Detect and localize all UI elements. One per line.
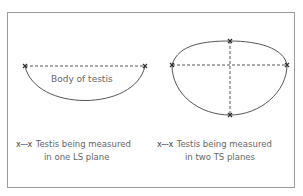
body-of-testis-label: Body of testis	[51, 74, 113, 85]
legend-text-line1: Testis being measured	[177, 139, 272, 149]
ts-plane-diagram	[170, 39, 289, 117]
ts-planes-legend: x---xTestis being measured in two TS pla…	[157, 138, 272, 163]
legend-text-line2: in one LS plane	[16, 151, 131, 163]
legend-text-line2: in two TS planes	[157, 151, 272, 163]
ls-plane-legend: x---xTestis being measured in one LS pla…	[16, 138, 131, 163]
dashed-measure-key-icon: x---x	[16, 140, 32, 149]
dashed-measure-key-icon: x---x	[157, 140, 173, 149]
legend-text-line1: Testis being measured	[36, 139, 131, 149]
testis-diagrams	[0, 0, 303, 196]
